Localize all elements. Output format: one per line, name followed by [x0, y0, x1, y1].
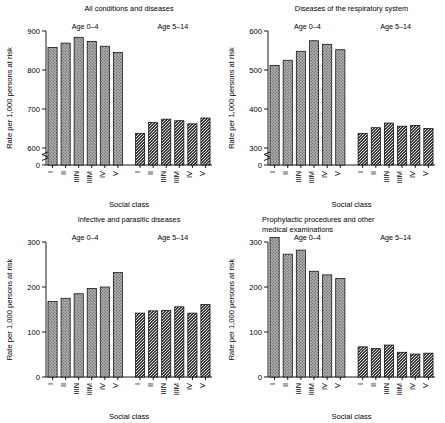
svg-text:0: 0	[36, 373, 40, 382]
bar	[336, 278, 345, 377]
bar	[309, 41, 318, 165]
x-tick-label: IIIN	[159, 171, 168, 183]
x-tick-label: I	[268, 383, 277, 385]
x-tick-label: IIIM	[85, 171, 94, 183]
svg-text:700: 700	[27, 105, 40, 114]
bar	[309, 271, 318, 377]
x-tick-label: V	[111, 383, 120, 388]
svg-text:0: 0	[258, 373, 262, 382]
x-tick-label: IV	[185, 171, 194, 178]
svg-text:600: 600	[27, 144, 40, 153]
svg-text:800: 800	[27, 66, 40, 75]
svg-text:0: 0	[36, 161, 40, 170]
bar	[100, 46, 109, 165]
svg-text:Age 0–4: Age 0–4	[72, 233, 99, 242]
x-tick-label: IIIN	[382, 171, 391, 183]
svg-text:Age 5–14: Age 5–14	[380, 233, 411, 242]
x-tick-label: IV	[98, 383, 107, 390]
bar	[201, 118, 210, 165]
x-tick-label: II	[146, 383, 155, 387]
svg-text:900: 900	[27, 27, 40, 36]
x-tick-label: I	[356, 171, 365, 173]
bar	[162, 119, 171, 165]
x-tick-label: I	[46, 171, 55, 173]
x-tick-label: II	[146, 171, 155, 175]
bar	[398, 352, 407, 377]
x-tick-label: II	[59, 383, 68, 387]
svg-text:Age 5–14: Age 5–14	[380, 22, 411, 31]
x-tick-label: I	[46, 383, 55, 385]
svg-text:Age 5–14: Age 5–14	[157, 22, 188, 31]
x-tick-label: V	[198, 383, 207, 388]
y-axis-label: Rate per 1,000 persons at risk	[227, 258, 236, 360]
svg-text:500: 500	[249, 66, 262, 75]
svg-text:Age 0–4: Age 0–4	[294, 233, 321, 242]
chart-panel-4: Prophylactic procedures and othermedical…	[222, 211, 445, 423]
x-tick-label: IIIN	[72, 171, 81, 183]
bar	[87, 288, 96, 377]
x-tick-label: V	[421, 383, 430, 388]
x-tick-label: IIIM	[85, 383, 94, 395]
x-tick-label: V	[198, 171, 207, 176]
bar	[411, 354, 420, 377]
bar	[336, 50, 345, 165]
x-tick-label: IIIM	[172, 383, 181, 395]
bar	[323, 44, 332, 165]
svg-text:200: 200	[27, 283, 40, 292]
svg-text:200: 200	[249, 283, 262, 292]
x-tick-label: IIIM	[395, 171, 404, 183]
svg-text:100: 100	[27, 328, 40, 337]
x-tick-label: II	[369, 171, 378, 175]
bar	[323, 275, 332, 377]
svg-text:100: 100	[249, 328, 262, 337]
x-tick-label: IIIM	[307, 383, 316, 395]
bar	[270, 238, 279, 378]
x-tick-label: IIIM	[307, 171, 316, 183]
x-tick-label: II	[59, 171, 68, 175]
x-axis-label: Social class	[109, 200, 149, 209]
bar	[136, 134, 145, 165]
y-axis-label: Rate per 1,000 persons at risk	[5, 258, 14, 360]
bar	[296, 250, 305, 377]
bar	[48, 301, 57, 377]
x-tick-label: V	[333, 171, 342, 176]
x-tick-label: II	[281, 171, 290, 175]
bar	[188, 124, 197, 165]
bar	[136, 313, 145, 377]
bar	[113, 273, 122, 377]
x-tick-label: I	[133, 383, 142, 385]
x-tick-label: IV	[408, 171, 417, 178]
y-axis-label: Rate per 1,000 persons at risk	[5, 47, 14, 149]
x-tick-label: IIIM	[172, 171, 181, 183]
bar	[61, 298, 70, 377]
bar	[48, 47, 57, 165]
x-tick-label: IV	[185, 383, 194, 390]
x-tick-label: IIIN	[382, 383, 391, 395]
bar	[411, 125, 420, 165]
bar	[371, 128, 380, 165]
bar	[398, 126, 407, 165]
bar	[371, 349, 380, 377]
bar	[175, 121, 184, 165]
x-tick-label: I	[356, 383, 365, 385]
x-tick-label: IV	[320, 383, 329, 390]
svg-text:600: 600	[249, 27, 262, 36]
bar	[283, 60, 292, 165]
x-tick-label: IIIN	[159, 383, 168, 395]
svg-text:Age 0–4: Age 0–4	[72, 22, 99, 31]
x-tick-label: V	[421, 171, 430, 176]
bar	[175, 307, 184, 377]
bar	[270, 65, 279, 165]
svg-text:Age 5–14: Age 5–14	[157, 233, 188, 242]
bar	[100, 287, 109, 377]
bar	[358, 347, 367, 377]
x-tick-label: V	[111, 171, 120, 176]
x-tick-label: I	[268, 171, 277, 173]
bar	[384, 345, 393, 377]
bar	[113, 52, 122, 165]
x-axis-label: Social class	[331, 200, 371, 209]
x-axis-label: Social class	[109, 412, 149, 421]
bar	[283, 254, 292, 377]
bar	[149, 311, 158, 377]
figure-panel-grid: All conditions and diseases0600700800900…	[0, 0, 445, 423]
